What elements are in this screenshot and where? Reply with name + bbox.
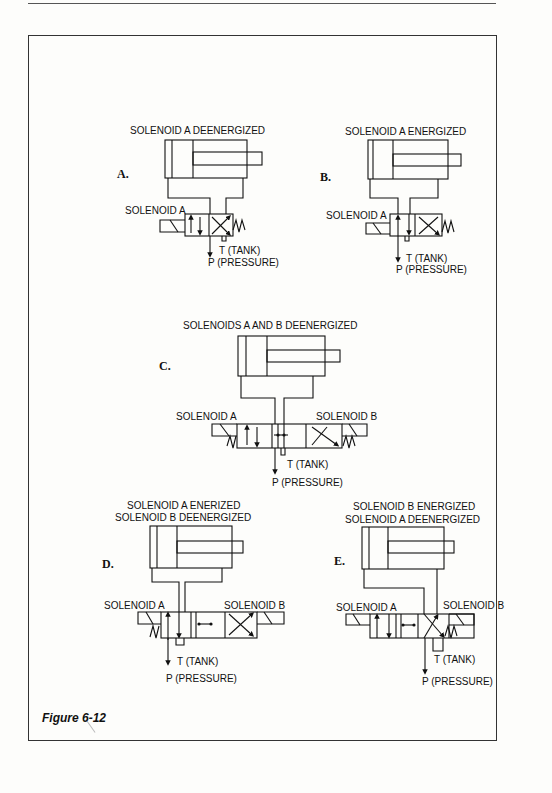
panel-d-title-line2: SOLENOID B DEENERGIZED: [115, 512, 251, 523]
pressure-label: P (PRESSURE): [166, 673, 237, 684]
tank-label: T (TANK): [287, 459, 328, 470]
pressure-label: P (PRESSURE): [272, 477, 343, 488]
panel-c-letter: C.: [159, 359, 171, 373]
panel-b-title: SOLENOID A ENERGIZED: [345, 126, 466, 137]
spring-icon: [233, 220, 245, 232]
solenoid-b-label: SOLENOID B: [224, 600, 285, 611]
spring-icon: [442, 221, 454, 233]
solenoid-a: [160, 220, 185, 232]
solenoid-a-label: SOLENOID A: [336, 602, 397, 613]
tank-label: T (TANK): [219, 245, 260, 256]
pressure-label: P (PRESSURE): [396, 264, 467, 275]
panel-d: SOLENOID A ENERIZED SOLENOID B DEENERGIZ…: [102, 500, 285, 684]
tank-label: T (TANK): [406, 253, 447, 264]
panel-e: SOLENOID B ENERGIZED SOLENOID A DEENERGI…: [334, 501, 504, 687]
solenoid-a-label: SOLENOID A: [326, 210, 387, 221]
spring-icon: [445, 626, 457, 638]
panel-b: SOLENOID A ENERGIZED B. SOLENOID A T (TA…: [320, 126, 467, 275]
solenoid-a-label: SOLENOID A: [176, 411, 237, 422]
solenoid-a-label: SOLENOID A: [125, 205, 186, 216]
spring-icon: [227, 436, 236, 448]
panel-b-letter: B.: [320, 170, 331, 184]
pressure-label: P (PRESSURE): [208, 257, 279, 268]
solenoid-b-label: SOLENOID B: [443, 600, 504, 611]
panel-a-letter: A.: [117, 167, 129, 181]
tank-label: T (TANK): [434, 654, 475, 665]
panel-c: SOLENOIDS A AND B DEENERGIZED C. SOLENOI…: [159, 320, 377, 488]
piston-rod: [193, 152, 262, 165]
panel-e-letter: E.: [334, 554, 345, 568]
pressure-label: P (PRESSURE): [422, 676, 493, 687]
panel-e-title-line2: SOLENOID A DEENERGIZED: [345, 514, 480, 525]
cylinder: [165, 140, 247, 178]
panel-d-letter: D.: [102, 557, 114, 571]
panel-e-title-line1: SOLENOID B ENERGIZED: [353, 501, 475, 512]
hydraulic-diagram: SOLENOID A DEENERGIZED A. SOLENOID A T (…: [0, 0, 552, 793]
solenoid-b-label: SOLENOID B: [316, 411, 377, 422]
panel-a-title: SOLENOID A DEENERGIZED: [130, 125, 265, 136]
panel-d-title-line1: SOLENOID A ENERIZED: [127, 500, 240, 511]
panel-c-title: SOLENOIDS A AND B DEENERGIZED: [183, 320, 358, 331]
spring-icon: [343, 436, 355, 448]
panel-a: SOLENOID A DEENERGIZED A. SOLENOID A T (…: [117, 125, 279, 268]
figure-caption: Figure 6-12: [42, 711, 106, 725]
spring-icon: [150, 626, 159, 638]
solenoid-a-label: SOLENOID A: [104, 600, 165, 611]
tank-label: T (TANK): [177, 656, 218, 667]
